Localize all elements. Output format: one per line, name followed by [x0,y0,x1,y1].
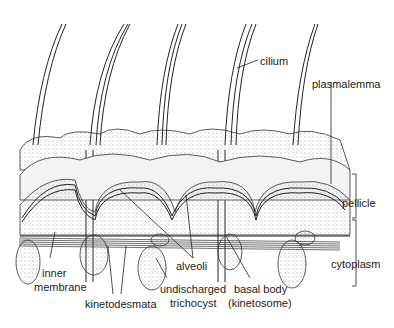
label-basal-body: basal body [234,283,287,295]
label-cilium: cilium [260,55,288,67]
ciliate-pellicle-diagram: cilium plasmalemma pellicle cytoplasm in… [0,0,394,328]
label-cytoplasm: cytoplasm [331,258,381,270]
label-pellicle: pellicle [342,197,376,209]
label-membrane: membrane [34,281,87,293]
label-alveoli: alveoli [176,260,207,272]
label-plasmalemma: plasmalemma [312,78,380,90]
surface-lobes [20,129,350,235]
label-trichocyst: trichocyst [170,297,216,309]
label-inner: inner [42,267,66,279]
label-kinetosome: (kinetosome) [228,297,292,309]
label-undischarged: undischarged [160,283,226,295]
label-kinetodesmata: kinetodesmata [85,298,157,310]
